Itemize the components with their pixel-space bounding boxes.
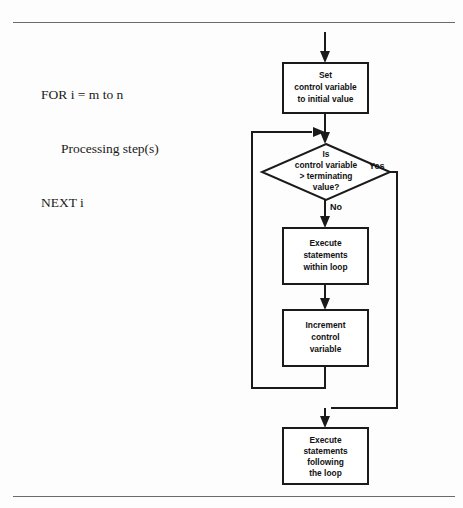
entry-arrow — [320, 32, 330, 63]
node-increment-control-variable: Increment control variable — [283, 310, 368, 366]
node-increment-line-1: Increment — [305, 320, 345, 330]
node-body-line-2: statements — [303, 250, 348, 260]
node-set-line-2: control variable — [294, 82, 357, 92]
node-body-line-3: within loop — [302, 262, 347, 272]
branch-yes-label: Yes — [369, 161, 385, 171]
node-increment-line-3: variable — [310, 344, 342, 354]
node-body-line-1: Execute — [309, 238, 341, 248]
node-set-control-variable: Set control variable to initial value — [283, 63, 368, 113]
node-exit-line-4: the loop — [309, 468, 342, 478]
flowchart-page: FOR i = m to n Processing step(s) NEXT i… — [0, 0, 463, 508]
node-decision-terminating: Is control variable > terminating value? — [262, 144, 390, 200]
flowchart-diagram: Set control variable to initial value Is… — [0, 0, 463, 508]
node-decision-line-3: > terminating — [300, 171, 353, 181]
node-set-line-3: to initial value — [298, 94, 354, 104]
node-execute-following-loop: Execute statements following the loop — [283, 428, 368, 484]
connector-body-to-increment — [320, 284, 330, 310]
node-increment-line-2: control — [311, 332, 339, 342]
node-exit-line-2: statements — [303, 446, 348, 456]
connector-yes-to-exit — [320, 408, 330, 428]
node-decision-line-2: control variable — [295, 160, 358, 170]
node-exit-line-3: following — [307, 457, 344, 467]
node-set-line-1: Set — [319, 70, 332, 80]
node-decision-line-1: Is — [323, 149, 330, 159]
node-decision-line-4: value? — [313, 182, 340, 192]
node-execute-within-loop: Execute statements within loop — [283, 228, 368, 284]
node-exit-line-1: Execute — [309, 435, 341, 445]
branch-no: No — [320, 200, 342, 228]
connector-init-to-decision — [320, 113, 330, 144]
branch-no-label: No — [330, 202, 342, 212]
